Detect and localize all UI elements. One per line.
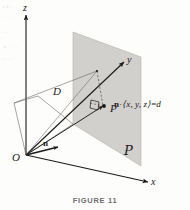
z-axis-label: z bbox=[23, 3, 27, 13]
y-axis-label: y bbox=[127, 55, 131, 65]
normal-vector-label: n bbox=[43, 139, 48, 148]
x-axis-label: x bbox=[151, 177, 155, 187]
equation-vector: ⟨x, y, z⟩ bbox=[122, 99, 151, 109]
point-p-marker bbox=[102, 104, 106, 108]
figure-caption: FIGURE 11 bbox=[0, 196, 190, 205]
origin-label: O bbox=[12, 152, 20, 163]
diagram-canvas bbox=[0, 0, 190, 210]
plane-equation: n·⟨x, y, z⟩=d bbox=[114, 100, 161, 109]
figure-container: r l· . . · . · · t. · · . ·. ..·· · bbox=[0, 0, 190, 210]
projection-corner-dot bbox=[96, 70, 98, 72]
distance-label: D bbox=[53, 86, 61, 97]
equation-value: d bbox=[156, 99, 161, 109]
plane-name-label: P bbox=[124, 144, 133, 157]
